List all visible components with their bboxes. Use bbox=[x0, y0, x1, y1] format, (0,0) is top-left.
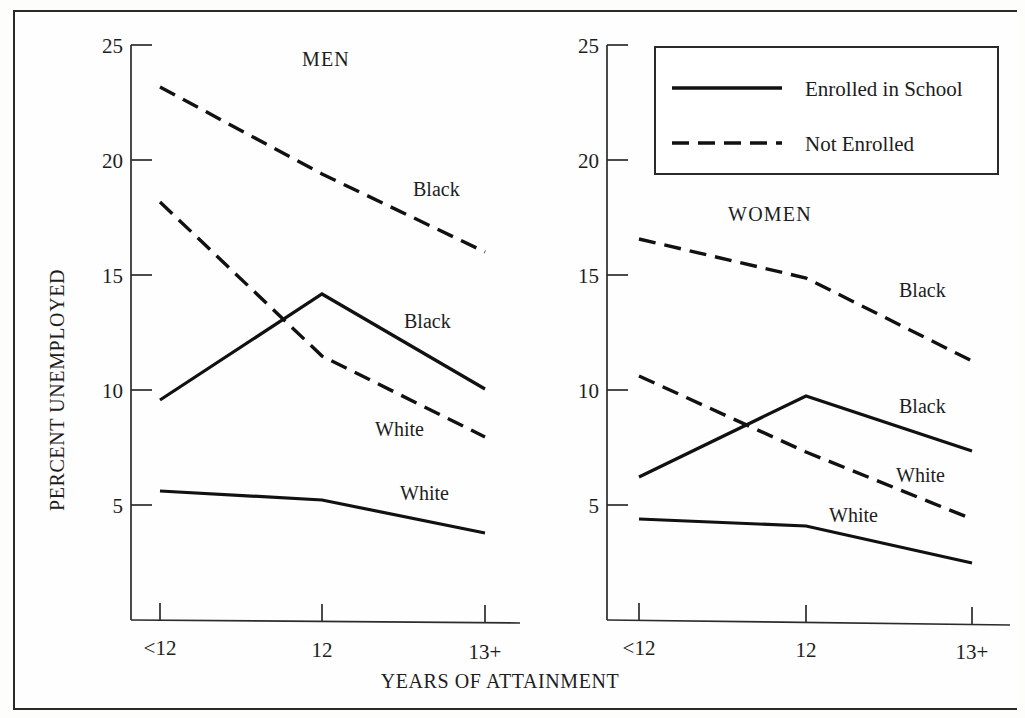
figure-container: 25 20 15 10 5 <12 12 13+ MEN bbox=[0, 0, 1025, 718]
legend-label-not-enrolled: Not Enrolled bbox=[805, 132, 915, 156]
women-ytick-15: 15 bbox=[578, 264, 599, 288]
men-label-black-not-enrolled: Black bbox=[413, 178, 460, 200]
women-xtick-12: 12 bbox=[796, 638, 817, 662]
men-label-white-not-enrolled: White bbox=[375, 418, 424, 440]
x-axis-title: YEARS OF ATTAINMENT bbox=[381, 670, 620, 692]
men-xtick-13p: 13+ bbox=[469, 640, 502, 664]
men-panel-title: MEN bbox=[302, 48, 350, 70]
women-ytick-20: 20 bbox=[578, 149, 599, 173]
men-ytick-15: 15 bbox=[102, 264, 123, 288]
women-y-ticks bbox=[607, 45, 628, 505]
men-x-ticks bbox=[160, 603, 485, 622]
chart-svg: 25 20 15 10 5 <12 12 13+ MEN bbox=[0, 0, 1025, 718]
women-series-white-enrolled bbox=[639, 519, 972, 563]
chart-legend: Enrolled in School Not Enrolled bbox=[655, 47, 998, 174]
women-xtick-lt12: <12 bbox=[623, 636, 656, 660]
y-axis-title: PERCENT UNEMPLOYED bbox=[46, 269, 68, 511]
men-x-axis bbox=[131, 620, 520, 623]
men-label-white-enrolled: White bbox=[400, 482, 449, 504]
men-xtick-lt12: <12 bbox=[144, 636, 177, 660]
women-panel-title: WOMEN bbox=[728, 203, 812, 225]
men-label-black-enrolled: Black bbox=[404, 310, 451, 332]
women-ytick-5: 5 bbox=[589, 494, 600, 518]
women-label-black-not-enrolled: Black bbox=[899, 279, 946, 301]
men-y-ticks bbox=[131, 45, 152, 505]
women-ytick-25: 25 bbox=[578, 34, 599, 58]
men-ytick-25: 25 bbox=[102, 34, 123, 58]
women-x-axis bbox=[607, 620, 1010, 625]
women-label-white-enrolled: White bbox=[829, 504, 878, 526]
men-series-black-not-enrolled bbox=[160, 87, 485, 252]
women-label-white-not-enrolled: White bbox=[896, 464, 945, 486]
legend-label-enrolled: Enrolled in School bbox=[805, 77, 963, 101]
women-xtick-13p: 13+ bbox=[956, 640, 989, 664]
women-label-black-enrolled: Black bbox=[899, 395, 946, 417]
men-ytick-20: 20 bbox=[102, 149, 123, 173]
men-ytick-5: 5 bbox=[113, 494, 124, 518]
panel-men: 25 20 15 10 5 <12 12 13+ MEN bbox=[102, 34, 520, 664]
men-xtick-12: 12 bbox=[312, 638, 333, 662]
women-ytick-10: 10 bbox=[578, 379, 599, 403]
men-ytick-10: 10 bbox=[102, 379, 123, 403]
